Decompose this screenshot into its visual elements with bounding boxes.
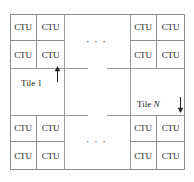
ctu-cell: CTU bbox=[10, 142, 37, 169]
tile-boundary-vertical-left-outer bbox=[64, 14, 65, 116]
ctu-group-top-left: CTU CTU CTU CTU bbox=[10, 14, 64, 68]
tile-last-index: N bbox=[153, 99, 159, 109]
tile-last-arrow-icon bbox=[177, 97, 184, 113]
ctu-cell: CTU bbox=[130, 41, 157, 68]
ctu-cell: CTU bbox=[37, 41, 64, 68]
ctu-cell: CTU bbox=[130, 142, 157, 169]
ctu-cell: CTU bbox=[10, 41, 37, 68]
ctu-cell: CTU bbox=[37, 142, 64, 169]
ctu-group-bottom-left: CTU CTU CTU CTU bbox=[10, 115, 64, 169]
ctu-cell: CTU bbox=[157, 115, 184, 142]
tile-first-index: 1 bbox=[37, 78, 42, 88]
ctu-group-top-right: CTU CTU CTU CTU bbox=[130, 14, 184, 68]
tile-first-prefix: Tile bbox=[21, 78, 35, 88]
ctu-cell: CTU bbox=[10, 115, 37, 142]
ctu-cell: CTU bbox=[37, 14, 64, 41]
tile-partitioning-figure: CTU CTU CTU CTU CTU CTU CTU CTU CTU CTU … bbox=[0, 0, 194, 182]
tile-boundary-horizontal-upper-right bbox=[107, 68, 185, 69]
ctu-cell: CTU bbox=[157, 41, 184, 68]
ctu-group-bottom-right: CTU CTU CTU CTU bbox=[130, 115, 184, 169]
tile-boundary-vertical-left-inner bbox=[64, 115, 65, 170]
ellipsis-bottom: · · · bbox=[86, 137, 107, 147]
ctu-cell: CTU bbox=[130, 115, 157, 142]
ellipsis-top: · · · bbox=[86, 37, 107, 47]
tile-first-label: Tile 1 bbox=[21, 79, 42, 88]
ctu-cell: CTU bbox=[157, 142, 184, 169]
tile-last-prefix: Tile bbox=[137, 99, 151, 109]
ctu-cell: CTU bbox=[10, 14, 37, 41]
ctu-cell: CTU bbox=[130, 14, 157, 41]
ctu-cell: CTU bbox=[157, 14, 184, 41]
tile-last-label: Tile N bbox=[137, 100, 159, 109]
tile-boundary-horizontal-upper-left bbox=[10, 68, 88, 69]
tile-first-arrow-icon bbox=[54, 66, 61, 82]
ctu-cell: CTU bbox=[37, 115, 64, 142]
